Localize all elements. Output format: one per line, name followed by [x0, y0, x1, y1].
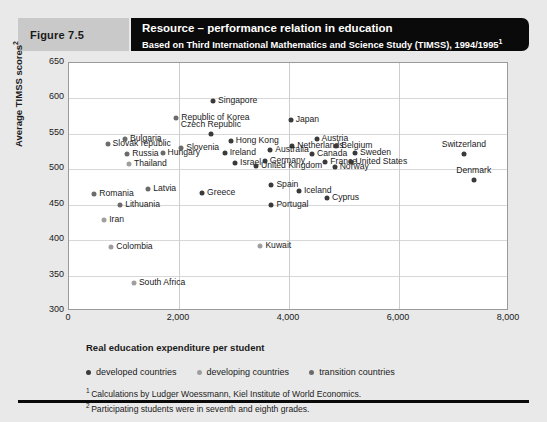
data-point	[118, 203, 123, 208]
data-point-label: Ireland	[230, 148, 256, 157]
plot-area: SingaporeJapanCzech RepublicHong KongAus…	[68, 62, 508, 310]
data-point-label: Thailand	[134, 159, 167, 168]
data-point-label: Republic of Korea	[181, 113, 249, 122]
figure-title-box: Resource – performance relation in educa…	[131, 18, 529, 51]
data-point-label: Cyprus	[332, 193, 359, 202]
legend-item[interactable]: transition countries	[309, 367, 395, 377]
x-tick-label: 4,000	[277, 312, 300, 322]
x-tick-label: 8,000	[497, 312, 520, 322]
data-point-label: Iran	[109, 215, 124, 224]
legend-item[interactable]: developing countries	[197, 367, 290, 377]
y-axis-footnote-mark: 2	[12, 41, 19, 45]
data-point-label: Lithuania	[125, 200, 160, 209]
figure-body: Average TIMSS scores2 300350400450500550…	[18, 51, 529, 404]
data-point-label: Hong Kong	[236, 136, 279, 145]
y-tick-label: 450	[20, 198, 64, 208]
data-point-label: Portugal	[276, 200, 308, 209]
figure-title: Resource – performance relation in educa…	[142, 21, 529, 35]
data-point-label: Norway	[340, 162, 369, 171]
footnote-text: Calculations by Ludger Woessmann, Kiel I…	[91, 389, 361, 399]
y-tick-label: 350	[20, 269, 64, 279]
data-point-label: Switzerland	[442, 140, 486, 149]
gridline-horizontal	[69, 98, 507, 99]
data-point-label: Iceland	[304, 186, 332, 195]
data-point	[131, 280, 136, 285]
figure-number-box: Figure 7.5	[18, 18, 129, 51]
figure-subtitle-text: Based on Third International Mathematics…	[142, 40, 498, 50]
figure-subtitle: Based on Third International Mathematics…	[142, 35, 529, 52]
data-point	[268, 148, 273, 153]
y-tick-label: 550	[20, 127, 64, 137]
data-point	[254, 164, 259, 169]
data-point	[324, 196, 329, 201]
data-point	[102, 217, 107, 222]
data-point-label: Spain	[276, 180, 298, 189]
x-tick-label: 0	[65, 312, 70, 322]
y-tick-label: 650	[20, 56, 64, 66]
data-point	[233, 160, 238, 165]
x-tick-label: 6,000	[387, 312, 410, 322]
data-point-label: Japan	[296, 115, 319, 124]
data-point	[332, 165, 337, 170]
y-tick-label: 300	[20, 304, 64, 314]
data-point	[288, 117, 293, 122]
data-point	[126, 161, 131, 166]
data-point	[269, 202, 274, 207]
data-point-label: Kuwait	[265, 241, 291, 250]
data-point-label: Singapore	[218, 96, 257, 105]
figure-subtitle-footnote-mark: 1	[498, 38, 502, 45]
data-point	[310, 152, 315, 157]
figure-page: Figure 7.5 Resource – performance relati…	[0, 0, 547, 422]
data-point-label: Romania	[99, 189, 133, 198]
data-point	[258, 243, 263, 248]
legend-item[interactable]: developed countries	[86, 367, 177, 377]
footnote: 1Calculations by Ludger Woessmann, Kiel …	[86, 385, 361, 400]
x-axis-ticks: 02,0004,0006,0008,000	[68, 312, 508, 326]
legend-label: developed countries	[96, 367, 177, 377]
chart-legend: developed countriesdeveloping countriest…	[86, 367, 415, 377]
footnote-text: Participating students were in seventh a…	[91, 404, 309, 414]
data-point-label: Colombia	[116, 242, 152, 251]
x-tick-label: 2,000	[167, 312, 190, 322]
y-tick-label: 500	[20, 162, 64, 172]
data-point-label: Latvia	[153, 184, 176, 193]
legend-label: developing countries	[207, 367, 290, 377]
legend-dot-icon	[197, 370, 202, 375]
data-point	[211, 98, 216, 103]
data-point-label: South Africa	[139, 278, 185, 287]
data-point	[461, 152, 466, 157]
data-point	[228, 138, 233, 143]
gridline-vertical	[399, 63, 400, 309]
data-point-label: Greece	[207, 188, 235, 197]
footnote-mark: 1	[86, 387, 90, 394]
chart-container: Average TIMSS scores2 300350400450500550…	[18, 51, 529, 341]
data-point	[471, 177, 476, 182]
data-point	[200, 190, 205, 195]
data-point	[92, 192, 97, 197]
y-tick-label: 600	[20, 91, 64, 101]
data-point	[323, 160, 328, 165]
gridline-horizontal	[69, 276, 507, 277]
legend-label: transition countries	[319, 367, 395, 377]
figure-header: Figure 7.5 Resource – performance relati…	[18, 18, 529, 51]
data-point	[208, 131, 213, 136]
data-point	[125, 151, 130, 156]
data-point	[296, 188, 301, 193]
legend-dot-icon	[309, 370, 314, 375]
bottom-divider	[18, 400, 529, 403]
data-point	[353, 150, 358, 155]
gridline-vertical	[179, 63, 180, 309]
legend-dot-icon	[86, 370, 91, 375]
data-point	[269, 182, 274, 187]
data-point	[146, 187, 151, 192]
footnote-mark: 2	[86, 402, 90, 409]
data-point	[174, 116, 179, 121]
data-point	[222, 150, 227, 155]
data-point-label: Russia	[132, 149, 158, 158]
y-axis-ticks: 300350400450500550600650	[18, 62, 64, 310]
y-tick-label: 400	[20, 233, 64, 243]
figure-panel: Figure 7.5 Resource – performance relati…	[18, 18, 529, 404]
figure-number-label: Figure 7.5	[30, 29, 84, 41]
data-point	[109, 244, 114, 249]
data-point	[105, 142, 110, 147]
